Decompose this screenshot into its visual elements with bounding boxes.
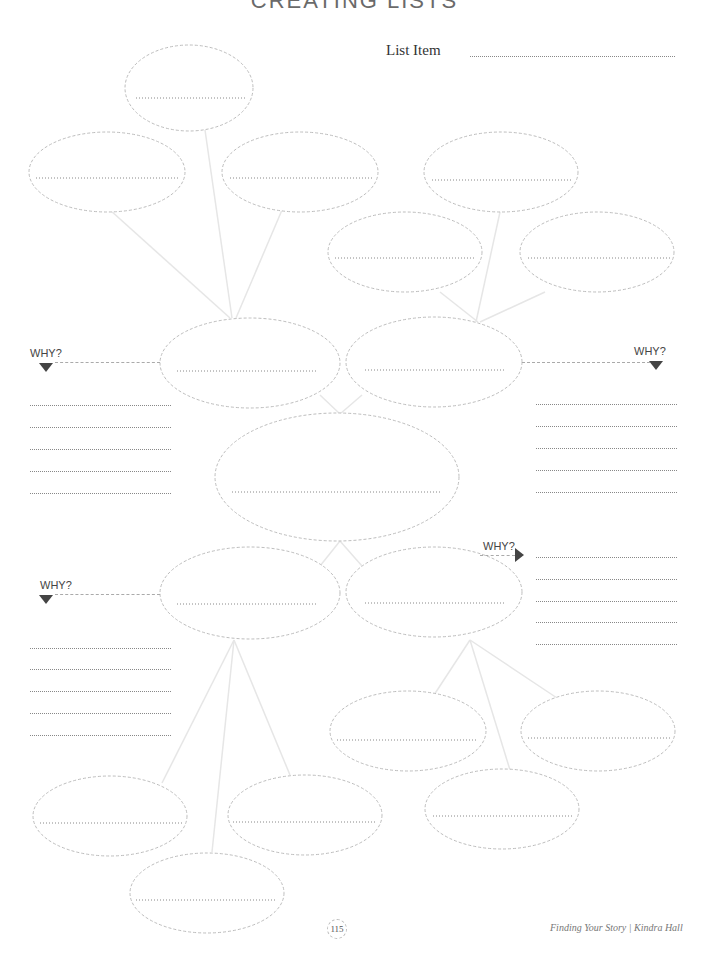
answer-line[interactable] bbox=[536, 644, 677, 645]
why-connector bbox=[55, 362, 160, 363]
why-connector bbox=[522, 362, 650, 363]
arrow-down-icon bbox=[39, 363, 53, 372]
answer-line[interactable] bbox=[30, 713, 171, 714]
why-connector bbox=[480, 555, 515, 556]
ellipses bbox=[29, 45, 675, 933]
answer-line[interactable] bbox=[30, 493, 171, 494]
answer-line[interactable] bbox=[536, 448, 677, 449]
why-label-lower-left: WHY? bbox=[40, 579, 72, 591]
mind-map-diagram bbox=[0, 0, 709, 957]
answer-line[interactable] bbox=[536, 470, 677, 471]
why-connector bbox=[55, 594, 160, 595]
answer-line[interactable] bbox=[536, 601, 677, 602]
answer-line[interactable] bbox=[30, 648, 171, 649]
arrow-right-icon bbox=[515, 548, 524, 562]
answer-line[interactable] bbox=[536, 426, 677, 427]
answer-line[interactable] bbox=[536, 492, 677, 493]
why-label-upper-right: WHY? bbox=[634, 345, 666, 357]
answer-line[interactable] bbox=[536, 557, 677, 558]
arrow-down-icon bbox=[39, 595, 53, 604]
why-label-lower-right: WHY? bbox=[483, 540, 515, 552]
answer-line[interactable] bbox=[30, 691, 171, 692]
why-label-upper-left: WHY? bbox=[30, 347, 62, 359]
answer-line[interactable] bbox=[536, 404, 677, 405]
answer-line[interactable] bbox=[30, 449, 171, 450]
answer-line[interactable] bbox=[30, 405, 171, 406]
answer-line[interactable] bbox=[30, 735, 171, 736]
answer-line[interactable] bbox=[30, 471, 171, 472]
footer-attribution: Finding Your Story | Kindra Hall bbox=[550, 922, 683, 933]
answer-line[interactable] bbox=[30, 669, 171, 670]
answer-line[interactable] bbox=[536, 579, 677, 580]
answer-line[interactable] bbox=[30, 427, 171, 428]
page-number: 115 bbox=[327, 919, 347, 939]
answer-line[interactable] bbox=[536, 622, 677, 623]
arrow-down-icon bbox=[649, 361, 663, 370]
